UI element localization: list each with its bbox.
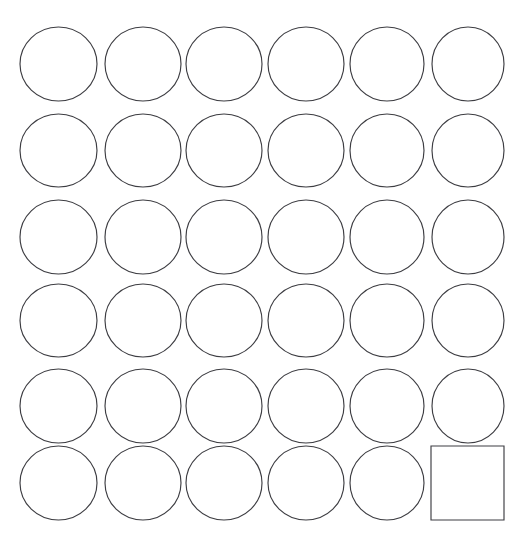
shape-grid-svg [0,0,519,550]
circle-shape [432,114,504,187]
circle-shape [350,114,424,187]
circle-shape [105,27,181,101]
circle-shape [432,369,504,443]
circle-shape [432,200,504,274]
circle-shape [186,446,262,520]
circle-shape [350,284,424,357]
circle-shape [20,369,97,443]
circle-shape [350,27,424,101]
circle-shape [20,114,97,187]
circle-shape [20,446,97,520]
circle-shape [350,369,424,443]
circle-shape [186,284,262,357]
circle-shape [268,369,344,443]
circle-shape [432,27,504,101]
circle-shape [186,200,262,274]
circle-shape [268,284,344,357]
circle-shape [268,200,344,274]
circle-shape [105,369,181,443]
circle-shape [105,114,181,187]
circle-shape [20,284,97,357]
circle-shape [268,446,344,520]
circle-shape [186,369,262,443]
circle-shape [20,27,97,101]
circle-shape [186,114,262,187]
circle-shape [105,446,181,520]
circle-shape [432,284,504,357]
square-shape [431,446,504,520]
circle-shape [350,200,424,274]
circle-shape [105,284,181,357]
shape-grid-canvas [0,0,519,550]
circle-shape [268,27,344,101]
circle-shape [105,200,181,274]
circle-shape [350,446,424,520]
circle-shape [186,27,262,101]
circle-shape [268,114,344,187]
circle-shape [20,200,97,274]
